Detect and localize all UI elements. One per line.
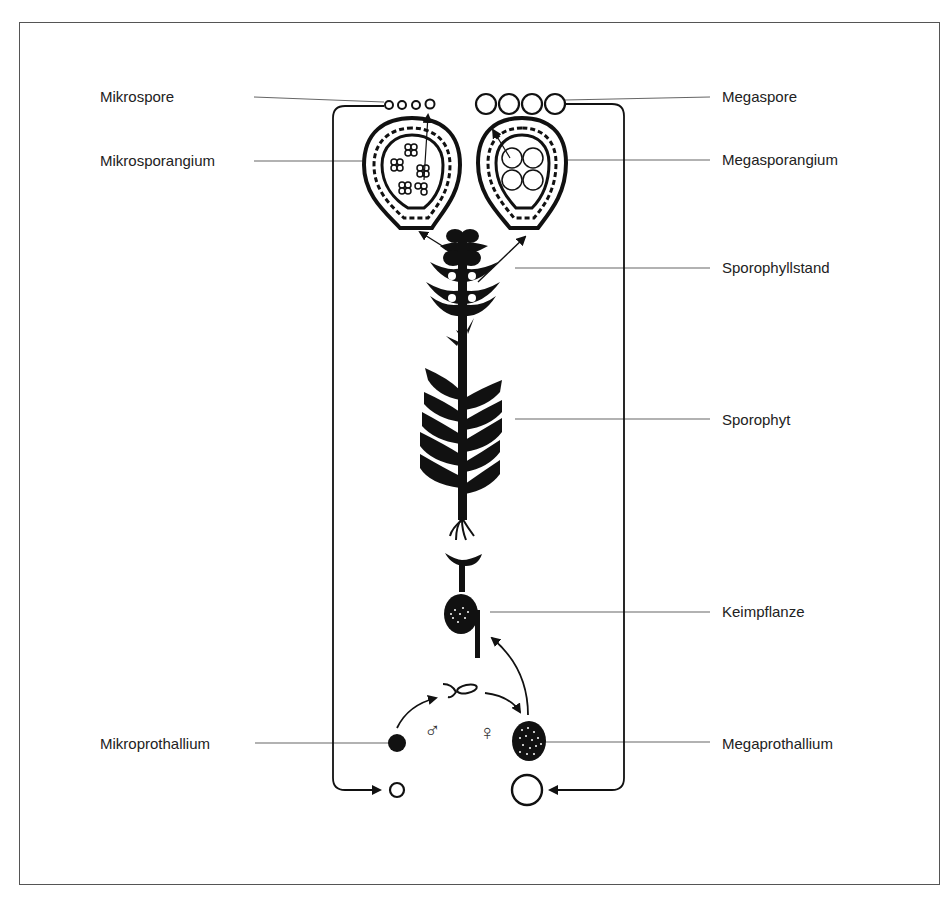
megasporangium-icon (478, 118, 566, 228)
keimpflanze-icon (444, 553, 482, 658)
life-cycle-diagram (0, 0, 948, 900)
label-mikrosporangium: Mikrosporangium (100, 152, 215, 170)
megaspore-icon (476, 94, 565, 114)
megaprothallium-icon (512, 721, 546, 761)
label-megasporangium: Megasporangium (722, 151, 838, 169)
female-symbol-icon: ♀ (479, 724, 496, 742)
sporophyt-icon (420, 330, 502, 520)
mikrospore-bottom-icon (390, 783, 404, 797)
label-megaprothallium: Megaprothallium (722, 735, 833, 753)
label-sporophyt: Sporophyt (722, 411, 790, 429)
label-sporophyllstand: Sporophyllstand (722, 259, 830, 277)
mikroprothallium-icon (388, 734, 406, 752)
male-symbol-icon: ♂ (424, 722, 441, 740)
label-mikroprothallium: Mikroprothallium (100, 735, 210, 753)
label-keimpflanze: Keimpflanze (722, 603, 805, 621)
label-mikrospore: Mikrospore (100, 88, 174, 106)
fertilization-arrows (397, 638, 528, 728)
spermatozoid-icon (443, 683, 478, 697)
mikrosporangium-icon (364, 115, 460, 228)
mikrospore-icon (385, 100, 435, 110)
roots-icon (450, 518, 474, 540)
megaspore-bottom-icon (512, 775, 542, 805)
label-megaspore: Megaspore (722, 88, 797, 106)
